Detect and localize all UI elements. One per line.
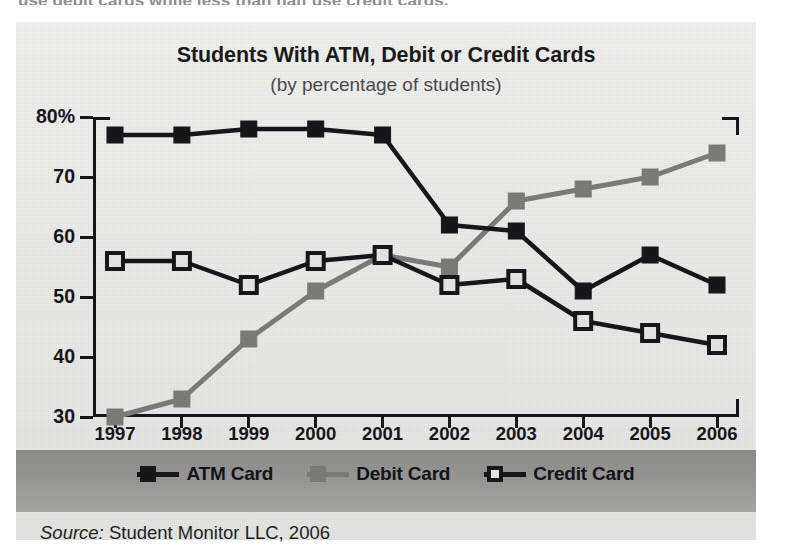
chart-page: use debit cards while less than half use… bbox=[0, 0, 790, 552]
chart-subtitle: (by percentage of students) bbox=[16, 74, 756, 96]
legend-item: ATM Card bbox=[137, 463, 273, 485]
data-point bbox=[441, 217, 457, 233]
y-tick-label: 30 bbox=[53, 405, 75, 428]
legend-marker bbox=[487, 466, 503, 482]
source-label: Source: bbox=[40, 522, 104, 543]
data-point bbox=[375, 247, 391, 263]
legend-marker bbox=[140, 466, 156, 482]
data-point bbox=[107, 127, 123, 143]
data-point bbox=[642, 325, 658, 341]
data-point bbox=[709, 145, 725, 161]
x-tick-label: 2006 bbox=[696, 423, 737, 445]
legend-swatch-icon bbox=[484, 465, 526, 483]
data-point bbox=[575, 313, 591, 329]
legend-label: ATM Card bbox=[186, 463, 273, 485]
data-point bbox=[308, 121, 324, 137]
data-point bbox=[642, 169, 658, 185]
y-tick bbox=[80, 296, 93, 299]
x-tick-label: 2005 bbox=[630, 423, 671, 445]
data-point bbox=[508, 223, 524, 239]
y-tick bbox=[80, 356, 93, 359]
data-point bbox=[107, 409, 123, 425]
data-point bbox=[308, 253, 324, 269]
x-tick-label: 2002 bbox=[429, 423, 470, 445]
data-point bbox=[241, 331, 257, 347]
chart-title: Students With ATM, Debit or Credit Cards bbox=[16, 43, 756, 68]
x-tick-label: 2003 bbox=[496, 423, 537, 445]
data-point bbox=[709, 337, 725, 353]
x-tick-label: 1998 bbox=[161, 423, 202, 445]
series-lines bbox=[93, 117, 739, 417]
data-point bbox=[441, 259, 457, 275]
data-point bbox=[575, 283, 591, 299]
source-value: Student Monitor LLC, 2006 bbox=[109, 522, 330, 543]
y-tick bbox=[80, 236, 93, 239]
y-tick-label: 80% bbox=[36, 105, 75, 128]
plot-area: 304050607080% 19971998199920002001200220… bbox=[93, 117, 739, 417]
series-line-atm-card bbox=[115, 129, 717, 291]
cutoff-body-text: use debit cards while less than half use… bbox=[18, 0, 718, 5]
legend-marker bbox=[310, 466, 326, 482]
data-point bbox=[174, 127, 190, 143]
x-tick-label: 2001 bbox=[362, 423, 403, 445]
data-point bbox=[174, 391, 190, 407]
y-tick-label: 60 bbox=[53, 225, 75, 248]
y-tick-label: 50 bbox=[53, 285, 75, 308]
data-point bbox=[107, 253, 123, 269]
chart-legend: ATM CardDebit CardCredit Card bbox=[16, 463, 756, 485]
legend-label: Debit Card bbox=[356, 463, 450, 485]
legend-item: Credit Card bbox=[484, 463, 634, 485]
legend-swatch-icon bbox=[307, 465, 349, 483]
x-tick-label: 1997 bbox=[94, 423, 135, 445]
data-point bbox=[575, 181, 591, 197]
x-tick-label: 2004 bbox=[563, 423, 604, 445]
legend-swatch-icon bbox=[137, 465, 179, 483]
data-point bbox=[508, 193, 524, 209]
series-line-debit-card bbox=[115, 153, 717, 417]
source-note: Source: Student Monitor LLC, 2006 bbox=[40, 522, 330, 544]
chart-panel: Students With ATM, Debit or Credit Cards… bbox=[16, 22, 756, 540]
y-tick bbox=[80, 116, 93, 119]
data-point bbox=[642, 247, 658, 263]
data-point bbox=[375, 127, 391, 143]
data-point bbox=[308, 283, 324, 299]
data-point bbox=[174, 253, 190, 269]
y-tick bbox=[80, 416, 93, 419]
data-point bbox=[241, 121, 257, 137]
legend-label: Credit Card bbox=[533, 463, 634, 485]
x-tick-label: 1999 bbox=[228, 423, 269, 445]
data-point bbox=[709, 277, 725, 293]
y-tick-label: 70 bbox=[53, 165, 75, 188]
x-tick-label: 2000 bbox=[295, 423, 336, 445]
data-point bbox=[441, 277, 457, 293]
legend-item: Debit Card bbox=[307, 463, 450, 485]
data-point bbox=[508, 271, 524, 287]
y-tick-label: 40 bbox=[53, 345, 75, 368]
y-tick bbox=[80, 176, 93, 179]
data-point bbox=[241, 277, 257, 293]
